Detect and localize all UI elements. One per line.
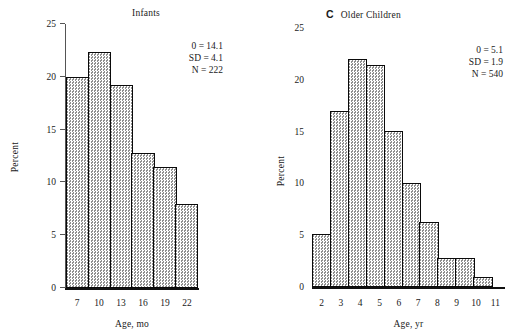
y-tick-20 — [60, 76, 65, 77]
y-tick-label-25: 25 — [284, 23, 304, 33]
y-tick-15 — [60, 129, 65, 130]
y-axis-title-infants: Percent — [10, 129, 20, 185]
figure-histogram-pair: Infants 0 = 14.1 SD = 4.1 N = 222 Percen… — [0, 0, 528, 335]
bar-row — [175, 204, 198, 289]
y-tick-0 — [60, 287, 65, 288]
x-axis-title-older-children: Age, yr — [312, 319, 505, 329]
y-tick-label-25: 25 — [34, 19, 56, 29]
y-tick-label-15: 15 — [34, 125, 56, 135]
y-tick-label-0: 0 — [284, 282, 304, 292]
panel-letter-c: C — [326, 8, 334, 20]
y-tick-5 — [60, 234, 65, 235]
bar-row — [473, 277, 493, 287]
y-tick-label-10: 10 — [284, 178, 304, 188]
y-tick-label-10: 10 — [34, 177, 56, 187]
x-tick-label: 2 — [312, 298, 331, 308]
panel-header-older-children: C Older Children — [326, 8, 401, 20]
bar-row — [153, 167, 176, 288]
bar-row — [312, 234, 332, 287]
bar-row — [384, 131, 404, 287]
x-tick-label: 3 — [331, 298, 350, 308]
y-tick-label-5: 5 — [284, 230, 304, 240]
y-axis-title-older-children: Percent — [276, 143, 286, 199]
bar-row — [131, 153, 154, 288]
y-tick-label-0: 0 — [34, 283, 56, 293]
bar-row — [88, 52, 111, 289]
x-tick-label: 5 — [370, 298, 389, 308]
x-tick-label: 10 — [466, 298, 485, 308]
bar-row — [419, 222, 439, 287]
x-tick-label: 8 — [428, 298, 447, 308]
bar-row — [330, 111, 350, 287]
bar-series-infants — [66, 24, 198, 288]
x-tick-label: 7 — [66, 298, 88, 308]
x-tick-label: 9 — [447, 298, 466, 308]
x-tick-label: 19 — [154, 298, 176, 308]
bar-row — [366, 65, 386, 287]
x-tick-label: 13 — [110, 298, 132, 308]
y-tick-label-20: 20 — [284, 75, 304, 85]
x-tick-label: 22 — [176, 298, 198, 308]
panel-older-children: C Older Children 0 = 5.1 SD = 1.9 N = 54… — [264, 0, 528, 335]
x-tick-label: 10 — [88, 298, 110, 308]
bar-series-older-children — [312, 28, 505, 287]
x-tick-label: 7 — [408, 298, 427, 308]
bar-row — [348, 59, 368, 287]
y-tick-label-20: 20 — [34, 72, 56, 82]
bar-row — [66, 77, 89, 288]
panel-infants: Infants 0 = 14.1 SD = 4.1 N = 222 Percen… — [0, 0, 264, 335]
bar-row — [455, 258, 475, 287]
y-tick-label-15: 15 — [284, 127, 304, 137]
plot-area-infants: 0 5 10 15 20 25 7 10 13 16 19 2 — [66, 24, 198, 288]
x-axis-line-older-children — [312, 287, 505, 289]
x-axis-title-infants: Age, mo — [66, 319, 198, 329]
bar-row — [402, 183, 422, 287]
bar-row — [110, 85, 133, 288]
x-tick-label: 4 — [351, 298, 370, 308]
x-tick-label: 6 — [389, 298, 408, 308]
y-tick-25 — [60, 23, 65, 24]
x-tick-label: 16 — [132, 298, 154, 308]
panel-title-older-children: Older Children — [341, 10, 401, 20]
x-axis-line-infants — [65, 288, 199, 290]
x-tick-labels-infants: 7 10 13 16 19 22 — [66, 298, 198, 308]
y-tick-10 — [60, 181, 65, 182]
x-tick-label: 11 — [486, 298, 505, 308]
x-tick-labels-older-children: 2 3 4 5 6 7 8 9 10 11 — [312, 298, 505, 308]
panel-title-infants: Infants — [0, 8, 264, 18]
y-tick-label-5: 5 — [34, 230, 56, 240]
bar-row — [437, 258, 457, 287]
plot-area-older-children: 0 5 10 15 20 25 2 3 — [312, 28, 505, 287]
